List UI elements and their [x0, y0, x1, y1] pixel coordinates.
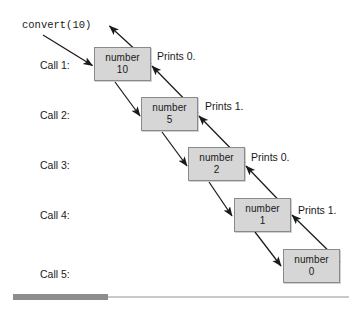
frame-1-value: 10 — [117, 64, 128, 76]
recursion-trace-figure: convert(10) Call 1: Call 2: Call 3: Call… — [0, 0, 353, 309]
arrow-call-3-to-4 — [209, 182, 232, 216]
horizontal-scrollbar-thumb[interactable] — [13, 294, 108, 300]
entry-call-expression: convert(10) — [22, 19, 91, 31]
frame-4-value: 1 — [260, 215, 266, 227]
prints-label-4: Prints 1. — [298, 204, 337, 216]
prints-label-3: Prints 0. — [251, 151, 290, 163]
call-label-5: Call 5: — [40, 268, 70, 280]
stack-frame-2: number 5 — [141, 97, 198, 131]
prints-label-2: Prints 1. — [205, 100, 244, 112]
prints-label-1: Prints 0. — [157, 50, 196, 62]
frame-3-var-name: number — [199, 152, 234, 164]
frame-3-value: 2 — [214, 164, 220, 176]
frame-2-var-name: number — [152, 102, 187, 114]
call-label-4: Call 4: — [40, 209, 70, 221]
frame-5-var-name: number — [294, 254, 329, 266]
stack-frame-5: number 0 — [283, 249, 340, 283]
frame-4-var-name: number — [245, 203, 280, 215]
stack-frame-3: number 2 — [188, 147, 245, 181]
arrow-call-2-to-3 — [162, 132, 187, 166]
arrow-call-1-to-2 — [115, 82, 140, 116]
frame-5-value: 0 — [309, 266, 315, 278]
arrow-call-4-to-5 — [255, 232, 281, 266]
call-label-3: Call 3: — [40, 159, 70, 171]
stack-frame-4: number 1 — [234, 198, 291, 232]
stack-frame-1: number 10 — [94, 47, 151, 81]
frame-1-var-name: number — [105, 52, 140, 64]
call-label-2: Call 2: — [40, 109, 70, 121]
call-label-1: Call 1: — [40, 59, 70, 71]
frame-2-value: 5 — [167, 114, 173, 126]
